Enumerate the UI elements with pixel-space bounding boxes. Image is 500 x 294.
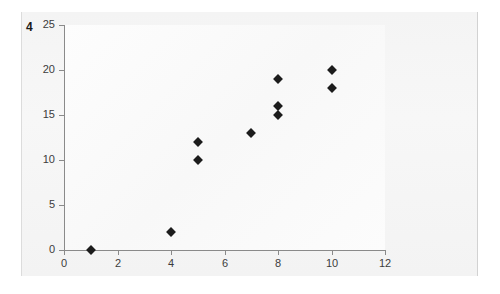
x-axis-tick — [118, 250, 119, 255]
x-axis-tick — [385, 250, 386, 255]
x-axis-tick-label: 8 — [266, 257, 290, 269]
figure-number-label: 4 — [26, 20, 33, 34]
y-axis-tick — [59, 205, 64, 206]
x-axis-tick-label: 10 — [320, 257, 344, 269]
y-axis-tick — [59, 115, 64, 116]
x-axis-tick-label: 12 — [373, 257, 397, 269]
scatter-plot-area — [64, 25, 385, 250]
y-axis-tick — [59, 25, 64, 26]
y-axis-tick-label: 20 — [33, 63, 55, 75]
x-axis-tick — [64, 250, 65, 255]
x-axis-tick — [332, 250, 333, 255]
y-axis-tick-label: 10 — [33, 153, 55, 165]
x-axis-tick — [225, 250, 226, 255]
x-axis-tick-label: 2 — [106, 257, 130, 269]
x-axis-tick-label: 0 — [52, 257, 76, 269]
y-axis-tick-label: 5 — [33, 198, 55, 210]
x-axis-tick — [171, 250, 172, 255]
y-axis-tick — [59, 70, 64, 71]
x-axis-tick-label: 6 — [213, 257, 237, 269]
y-axis-tick — [59, 160, 64, 161]
y-axis-tick-label: 0 — [33, 243, 55, 255]
y-axis-tick-label: 15 — [33, 108, 55, 120]
y-axis-line — [64, 25, 65, 251]
x-axis-tick-label: 4 — [159, 257, 183, 269]
x-axis-tick — [278, 250, 279, 255]
y-axis-tick-label: 25 — [33, 18, 55, 30]
plot-background — [64, 25, 385, 250]
